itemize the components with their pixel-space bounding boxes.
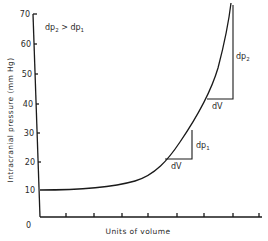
x-axis-title: Units of volume (106, 227, 171, 236)
chart-svg: 0 10 20 30 40 50 60 70 dp2 > dp1 dV dp1 … (0, 0, 268, 241)
pressure-volume-chart: 0 10 20 30 40 50 60 70 dp2 > dp1 dV dp1 … (0, 0, 268, 241)
y-axis-title: Intracranial pressure (mm Hg) (6, 58, 15, 183)
dv-upper-label: dV (212, 102, 223, 111)
dp2-label: dp2 (236, 52, 250, 62)
dp1-label: dp1 (196, 141, 210, 151)
y-tick-label-60: 60 (21, 40, 31, 49)
y-tick-label-10: 10 (25, 186, 35, 195)
y-tick-label-30: 30 (24, 129, 34, 138)
y-tick-label-70: 70 (20, 10, 30, 19)
y-tick-label-0: 0 (26, 221, 31, 230)
top-note: dp2 > dp1 (45, 23, 84, 33)
y-tick-label-20: 20 (25, 158, 35, 167)
dv-lower-label: dV (171, 162, 182, 171)
y-tick-label-50: 50 (22, 70, 32, 79)
y-tick-label-40: 40 (23, 100, 33, 109)
